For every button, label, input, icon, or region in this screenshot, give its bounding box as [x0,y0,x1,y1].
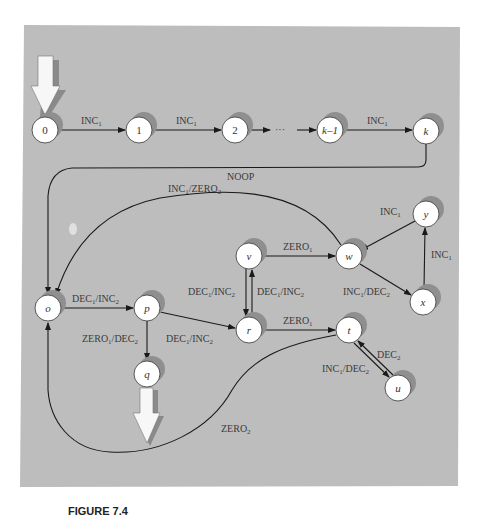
svg-text:x: x [420,296,426,308]
svg-text:o: o [45,302,51,314]
figure-caption: FIGURE 7.4 [68,505,128,516]
program-machine-diagram: 0 1 2 k–1 k o p q r t u v w x y INC1 INC… [0,0,483,516]
svg-text:r: r [247,324,252,336]
svg-text:p: p [143,302,150,314]
svg-text:2: 2 [232,124,238,136]
caption-label: FIGURE 7.4 [68,505,128,516]
svg-text:y: y [423,208,429,220]
svg-text:v: v [247,250,252,262]
svg-text:k–1: k–1 [322,124,338,136]
label-ellipsis: ··· [275,124,285,135]
scan-artifact [69,223,77,235]
svg-text:w: w [345,250,353,262]
svg-text:0: 0 [42,124,48,136]
label-k-o: NOOP [227,171,255,182]
svg-text:q: q [144,368,150,380]
svg-text:1: 1 [136,124,142,136]
svg-text:u: u [395,382,401,394]
